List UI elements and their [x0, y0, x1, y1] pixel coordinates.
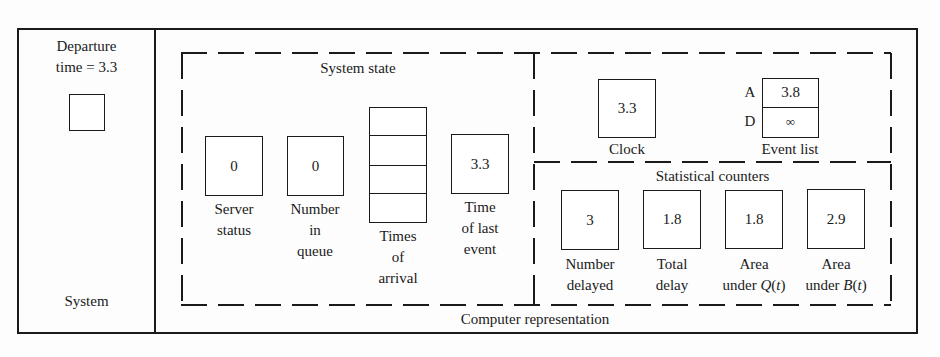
total-delay-label-line1: Total [632, 254, 712, 275]
area-under-b-arg: t [857, 277, 861, 293]
server-status-label-line2: status [194, 220, 274, 241]
number-delayed-box: 3 [561, 190, 619, 250]
number-in-queue-label: Number in queue [275, 199, 355, 262]
number-delayed-label-line1: Number [550, 254, 630, 275]
time-of-last-event-label-line1: Time [440, 197, 520, 218]
event-list-divider [763, 107, 818, 108]
times-of-arrival-label: Times of arrival [358, 226, 438, 289]
event-list-key-d: D [742, 111, 758, 132]
total-delay-value: 1.8 [663, 211, 682, 228]
clock-label: Clock [587, 139, 667, 160]
arrival-slot [370, 165, 426, 166]
area-under-b-label-line2: under B(t) [786, 275, 886, 296]
arrival-slot [370, 135, 426, 136]
area-under-q-arg: t [776, 277, 780, 293]
times-of-arrival-label-line1: Times [358, 226, 438, 247]
area-under-q-value: 1.8 [745, 211, 764, 228]
number-delayed-label-line2: delayed [550, 275, 630, 296]
event-list-departure-value: ∞ [763, 111, 818, 132]
area-under-q-box: 1.8 [725, 190, 783, 249]
time-of-last-event-box: 3.3 [451, 134, 509, 194]
area-under-q-fn: Q [760, 277, 771, 293]
number-in-queue-label-line2: in [275, 220, 355, 241]
event-list-key-a: A [742, 82, 758, 103]
event-list-label: Event list [740, 139, 840, 160]
time-of-last-event-label-line3: event [440, 239, 520, 260]
area-under-b-box: 2.9 [807, 189, 865, 249]
area-under-b-fn: B [843, 277, 852, 293]
time-of-last-event-value: 3.3 [471, 156, 490, 173]
time-of-last-event-label: Time of last event [440, 197, 520, 260]
event-list-arrival-value: 3.8 [763, 82, 818, 103]
event-list-box: 3.8 ∞ [762, 78, 819, 138]
server-status-box: 0 [205, 136, 263, 196]
number-delayed-label: Number delayed [550, 254, 630, 296]
server-status-label-line1: Server [194, 199, 274, 220]
number-in-queue-value: 0 [312, 158, 320, 175]
clock-box: 3.3 [598, 79, 656, 138]
times-of-arrival-label-line3: arrival [358, 268, 438, 289]
total-delay-label: Total delay [632, 254, 712, 296]
number-in-queue-box: 0 [287, 136, 344, 196]
system-state-title: System state [182, 58, 534, 79]
area-under-b-label-line1: Area [786, 254, 886, 275]
statistical-counters-title: Statistical counters [534, 166, 891, 187]
time-of-last-event-label-line2: of last [440, 218, 520, 239]
clock-value: 3.3 [618, 100, 637, 117]
total-delay-label-line2: delay [632, 275, 712, 296]
computer-representation-label: Computer representation [380, 309, 690, 330]
arrival-slot [370, 193, 426, 194]
number-delayed-value: 3 [586, 212, 594, 229]
number-in-queue-label-line1: Number [275, 199, 355, 220]
area-under-b-label: Area under B(t) [786, 254, 886, 296]
area-under-b-value: 2.9 [827, 211, 846, 228]
server-status-value: 0 [230, 158, 238, 175]
times-of-arrival-label-line2: of [358, 247, 438, 268]
server-status-label: Server status [194, 199, 274, 241]
area-under-q-prefix: under [723, 277, 761, 293]
area-under-b-prefix: under [805, 277, 843, 293]
times-of-arrival-stack [369, 107, 427, 223]
total-delay-box: 1.8 [643, 190, 701, 249]
number-in-queue-label-line3: queue [275, 241, 355, 262]
